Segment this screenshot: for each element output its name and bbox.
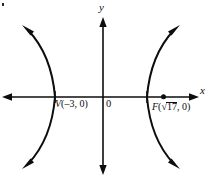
origin-label: 0 — [106, 99, 111, 110]
focus-point-marker — [161, 94, 166, 99]
vertex-point-label: V(–3, 0) — [55, 99, 88, 109]
radical-overbar — [166, 102, 177, 103]
focus-coords-tail: , 0) — [177, 101, 190, 112]
x-axis-left-arrowhead — [2, 93, 12, 101]
y-axis-bottom-arrowhead — [99, 165, 106, 175]
hyperbola-figure: y x 0 V(–3, 0) F(√17, 0) — [0, 0, 213, 178]
x-axis-label: x — [200, 85, 205, 96]
y-axis-top-arrowhead — [99, 17, 106, 27]
radicand: 17 — [167, 101, 177, 112]
x-axis — [2, 93, 199, 101]
vertex-point-coords: (–3, 0) — [61, 98, 88, 109]
y-axis-label: y — [99, 2, 104, 13]
y-axis — [99, 17, 106, 175]
focus-point-label: F(√17, 0) — [152, 101, 190, 112]
x-axis-right-arrowhead — [189, 93, 199, 101]
square-root-icon: √17 — [161, 101, 177, 112]
graph-canvas — [0, 0, 213, 178]
